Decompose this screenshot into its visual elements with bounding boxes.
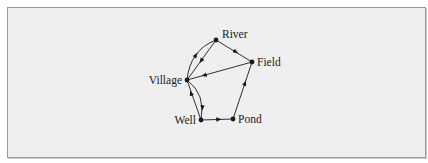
node-river: [214, 38, 219, 43]
node-field: [250, 60, 255, 65]
edge-field-village: [187, 62, 252, 80]
node-village: [185, 78, 190, 83]
label-well: Well: [175, 114, 196, 126]
label-pond: Pond: [238, 113, 262, 125]
label-village: Village: [149, 74, 182, 87]
edge-pond-field: [233, 62, 252, 119]
label-field: Field: [257, 56, 281, 68]
node-well: [199, 118, 204, 123]
label-river: River: [222, 28, 248, 40]
graph-canvas: River Field Village Well Pond: [0, 0, 428, 163]
node-pond: [231, 117, 236, 122]
